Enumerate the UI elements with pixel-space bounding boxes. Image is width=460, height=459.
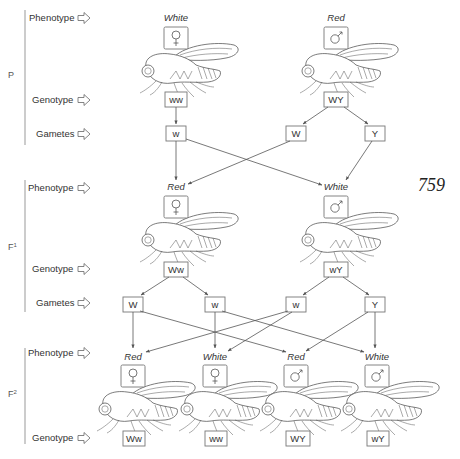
svg-text:Y: Y <box>372 299 379 310</box>
row-label-phenotype: Phenotype <box>29 12 74 23</box>
f2-female-fly <box>97 365 195 437</box>
generation-label-p: P <box>8 70 14 80</box>
page-number: 759 <box>418 175 445 195</box>
female-symbol-icon <box>164 27 188 49</box>
p-male-fly <box>300 27 398 99</box>
arrow-right-icon <box>78 348 90 359</box>
generation-label-f1: F1 <box>8 242 18 252</box>
svg-text:ww: ww <box>208 433 223 444</box>
generation-label-f2: F2 <box>8 389 18 399</box>
svg-text:wY: wY <box>370 433 385 444</box>
svg-text:Ww: Ww <box>168 264 184 275</box>
f1-genotype-female: Ww <box>164 262 188 277</box>
f1-gamete: w <box>286 297 306 312</box>
row-label-phenotype: Phenotype <box>28 347 73 358</box>
f2-genotype: ww <box>205 431 227 446</box>
svg-text:W: W <box>292 128 301 139</box>
p-phenotype-female: White <box>164 12 188 23</box>
svg-text:Ww: Ww <box>126 433 142 444</box>
f2-phenotype: White <box>365 351 389 362</box>
f1-phenotype-male: White <box>324 181 348 192</box>
arrow-right-icon <box>78 129 90 140</box>
svg-text:Y: Y <box>372 128 379 139</box>
male-symbol-icon <box>284 365 308 387</box>
svg-text:WY: WY <box>328 94 344 105</box>
f2-genotype: WY <box>286 431 310 446</box>
svg-text:W: W <box>129 299 138 310</box>
f1-gamete: w <box>205 297 225 312</box>
arrow-right-icon <box>78 183 90 194</box>
svg-text:WY: WY <box>290 433 306 444</box>
svg-text:w: w <box>211 299 219 310</box>
p-phenotype-male: Red <box>327 12 345 23</box>
male-symbol-icon <box>324 196 348 218</box>
female-symbol-icon <box>164 196 188 218</box>
f2-genotype: wY <box>367 431 389 446</box>
male-symbol-icon <box>365 365 389 387</box>
f2-male-fly <box>341 365 439 437</box>
f1-female-fly <box>140 196 238 268</box>
arrow-right-icon <box>78 298 90 309</box>
f2-genotype: Ww <box>123 431 145 446</box>
female-symbol-icon <box>203 365 227 387</box>
f2-phenotype: Red <box>124 351 142 362</box>
row-label-phenotype: Phenotype <box>28 182 73 193</box>
p-genotype-male: WY <box>324 92 348 107</box>
arrow-right-icon <box>78 433 90 444</box>
f1-genotype-male: wY <box>324 262 348 277</box>
f2-phenotype: White <box>203 351 227 362</box>
arrow-right-icon <box>78 95 90 106</box>
cross-diagram: 759 P F1 F2 Phenotype Genotype Gametes P… <box>0 0 460 459</box>
p-gamete: w <box>166 126 186 141</box>
male-symbol-icon <box>324 27 348 49</box>
f2-female-fly <box>179 365 277 437</box>
arrow-right-icon <box>78 264 90 275</box>
female-symbol-icon <box>121 365 145 387</box>
arrow-right-icon <box>78 13 90 24</box>
row-label-genotype: Genotype <box>32 94 73 105</box>
p-gamete: W <box>286 126 306 141</box>
row-label-genotype: Genotype <box>32 263 73 274</box>
p-female-fly <box>140 27 238 99</box>
svg-text:w: w <box>292 299 300 310</box>
f2-phenotype: Red <box>287 351 305 362</box>
svg-text:ww: ww <box>168 94 183 105</box>
f1-phenotype-female: Red <box>167 181 185 192</box>
p-genotype-female: ww <box>165 92 187 107</box>
p-gamete: Y <box>365 126 385 141</box>
f1-gamete: Y <box>365 297 385 312</box>
row-label-genotype: Genotype <box>32 432 73 443</box>
f1-gamete: W <box>123 297 143 312</box>
svg-text:w: w <box>172 128 180 139</box>
svg-text:wY: wY <box>328 264 343 275</box>
row-label-gametes: Gametes <box>36 128 75 139</box>
f1-male-fly <box>300 196 398 268</box>
f2-male-fly <box>260 365 358 437</box>
row-label-gametes: Gametes <box>36 297 75 308</box>
